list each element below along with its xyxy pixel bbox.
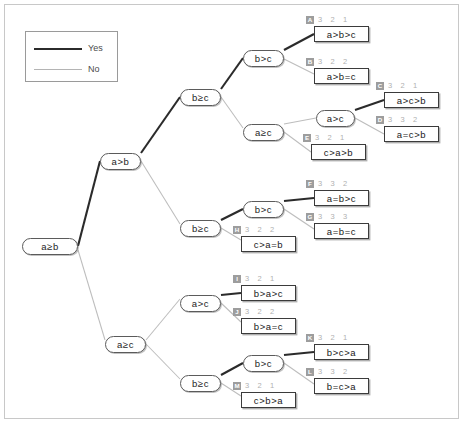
leaf-ranks-b: 3 2 2 (318, 57, 350, 66)
leaf-header-b: B3 2 2 (306, 56, 350, 67)
decision-tree-figure: Yes No a≥ba>bb≥cb>ca≥ca>cb≥cb>ca≥ca>cb≥c… (0, 0, 465, 430)
leaf-node-e[interactable]: c>a>b (311, 144, 366, 160)
leaf-ranks-j: 3 2 2 (245, 307, 277, 316)
leaf-ranks-i: 3 2 1 (245, 274, 277, 283)
leaf-node-m[interactable]: c>b>a (241, 392, 296, 408)
decision-node-n8[interactable]: a≥c (105, 336, 146, 353)
legend-label-yes: Yes (88, 42, 103, 55)
leaf-ranks-a: 3 2 1 (318, 15, 350, 24)
decision-node-n10[interactable]: b≥c (180, 375, 221, 392)
leaf-header-h: H3 2 2 (233, 224, 277, 235)
decision-node-n9[interactable]: a>c (180, 295, 221, 312)
leaf-header-m: M3 2 1 (233, 380, 277, 391)
leaf-badge-j: J (233, 308, 241, 316)
leaf-header-a: A3 2 1 (306, 14, 350, 25)
decision-node-n3[interactable]: b>c (243, 50, 284, 67)
leaf-header-k: K3 2 1 (306, 332, 350, 343)
leaf-header-f: F3 3 2 (306, 178, 350, 189)
leaf-badge-c: C (376, 82, 384, 90)
leaf-node-h[interactable]: c>a=b (241, 236, 296, 252)
decision-node-n11[interactable]: b>c (243, 355, 284, 372)
leaf-node-k[interactable]: b>c>a (314, 344, 369, 360)
leaf-header-l: L3 3 2 (306, 366, 350, 377)
legend-row-yes: Yes (26, 40, 119, 58)
leaf-ranks-c: 3 2 1 (388, 81, 420, 90)
legend-row-no: No (26, 61, 119, 79)
leaf-ranks-h: 3 2 2 (245, 225, 277, 234)
decision-node-n5[interactable]: a>c (316, 110, 355, 127)
leaf-node-l[interactable]: b=c>a (314, 378, 369, 394)
leaf-badge-d: D (376, 116, 384, 124)
leaf-ranks-g: 3 3 3 (318, 212, 350, 221)
legend-line-yes (34, 48, 82, 50)
leaf-header-i: I3 2 1 (233, 273, 277, 284)
leaf-ranks-e: 3 2 1 (315, 133, 347, 142)
decision-node-n1[interactable]: a>b (100, 153, 141, 170)
leaf-header-g: G3 3 3 (306, 211, 350, 222)
leaf-ranks-m: 3 2 1 (245, 381, 277, 390)
leaf-badge-e: E (303, 134, 311, 142)
leaf-badge-l: L (306, 368, 314, 376)
legend-label-no: No (88, 63, 100, 76)
leaf-header-c: C3 2 1 (376, 80, 420, 91)
leaf-node-g[interactable]: a=b=c (314, 223, 369, 239)
leaf-badge-k: K (306, 334, 314, 342)
leaf-badge-g: G (306, 213, 314, 221)
leaf-node-b[interactable]: a>b=c (314, 68, 369, 84)
leaf-header-e: E3 2 1 (303, 132, 347, 143)
leaf-node-f[interactable]: a=b>c (314, 190, 369, 206)
leaf-header-d: D3 3 2 (376, 114, 420, 125)
decision-node-n4[interactable]: a≥c (243, 124, 284, 141)
leaf-badge-a: A (306, 16, 314, 24)
leaf-badge-h: H (233, 226, 241, 234)
decision-node-n7[interactable]: b>c (243, 201, 284, 218)
leaf-badge-f: F (306, 180, 314, 188)
legend: Yes No (25, 31, 118, 82)
decision-node-n2[interactable]: b≥c (180, 89, 221, 106)
leaf-node-a[interactable]: a>b>c (314, 26, 369, 42)
leaf-ranks-l: 3 3 2 (318, 367, 350, 376)
leaf-ranks-k: 3 2 1 (318, 333, 350, 342)
leaf-node-j[interactable]: b>a=c (241, 318, 296, 334)
leaf-ranks-d: 3 3 2 (388, 115, 420, 124)
leaf-node-c[interactable]: a>c>b (384, 92, 439, 108)
leaf-node-d[interactable]: a=c>b (384, 126, 439, 142)
leaf-badge-i: I (233, 275, 241, 283)
leaf-badge-m: M (233, 382, 241, 390)
leaf-node-i[interactable]: b>a>c (241, 285, 296, 301)
leaf-badge-b: B (306, 58, 314, 66)
leaf-header-j: J3 2 2 (233, 306, 277, 317)
leaf-ranks-f: 3 3 2 (318, 179, 350, 188)
legend-line-no (34, 69, 82, 70)
decision-node-n6[interactable]: b≥c (180, 220, 221, 237)
decision-node-root[interactable]: a≥b (22, 238, 78, 255)
